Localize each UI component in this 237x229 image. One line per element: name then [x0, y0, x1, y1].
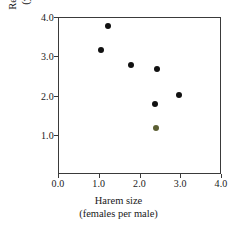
y-axis-tick — [54, 96, 58, 97]
y-axis-tick-label: 1.0 — [41, 129, 54, 140]
y-axis-label-line-1: Reproductive success — [6, 0, 19, 43]
data-point — [153, 125, 159, 131]
x-axis-tick-label: 0.0 — [51, 178, 64, 189]
y-axis-tick — [54, 17, 58, 18]
x-axis-tick-label: 4.0 — [214, 178, 227, 189]
data-point — [154, 66, 160, 72]
y-axis-tick — [54, 56, 58, 57]
data-point — [128, 62, 134, 68]
x-axis-tick-label: 1.0 — [92, 178, 105, 189]
y-axis-label: Reproductive success (young per female) — [6, 0, 32, 43]
data-point — [105, 23, 111, 29]
y-axis-tick-label: 3.0 — [41, 51, 54, 62]
x-axis-label: Harem size (females per male) — [0, 194, 237, 220]
y-axis-tick-label: 4.0 — [41, 12, 54, 23]
x-axis-tick-label: 2.0 — [133, 178, 146, 189]
data-points-layer — [58, 17, 221, 174]
x-axis-label-line-1: Harem size — [0, 194, 237, 207]
y-axis-label-line-2: (young per female) — [19, 0, 32, 43]
y-axis-tick-label: 2.0 — [41, 90, 54, 101]
data-point — [176, 92, 182, 98]
x-axis-label-line-2: (females per male) — [0, 207, 237, 220]
data-point — [98, 47, 104, 53]
data-point — [152, 101, 158, 107]
y-axis-tick — [54, 135, 58, 136]
x-axis-tick-label: 3.0 — [174, 178, 187, 189]
scatter-plot-figure: 0.01.02.03.04.0 1.02.03.04.0 Harem size … — [0, 0, 237, 229]
